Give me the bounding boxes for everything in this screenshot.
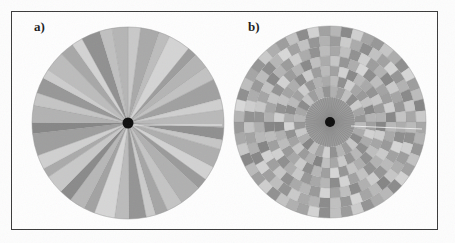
panel-b-hub <box>325 117 335 127</box>
heatmap-cell <box>330 167 340 178</box>
heatmap-cell <box>330 177 340 188</box>
heatmap-cell <box>320 56 330 67</box>
heatmap-cell <box>330 197 341 208</box>
heatmap-cell <box>375 112 386 122</box>
heatmap-cell <box>405 111 416 122</box>
heatmap-cell <box>319 197 330 208</box>
heatmap-cell <box>234 110 245 122</box>
panel-b-label: b) <box>248 19 260 35</box>
heatmap-cell <box>319 36 330 47</box>
heatmap-cell <box>395 111 406 122</box>
heatmap-cell <box>330 187 341 198</box>
heatmap-cell <box>320 66 330 77</box>
heatmap-cell <box>318 207 330 218</box>
heatmap-cell <box>264 122 275 132</box>
heatmap-cell <box>254 111 265 122</box>
heatmap-cell <box>234 122 245 134</box>
heatmap-cell <box>385 112 396 122</box>
heatmap-cell <box>330 46 341 57</box>
heatmap-cell <box>319 187 330 198</box>
panel-a-label: a) <box>34 19 45 35</box>
heatmap-cell <box>330 26 342 37</box>
heatmap-cell <box>244 122 255 133</box>
heatmap-cell <box>330 36 341 47</box>
heatmap-cell <box>318 26 330 37</box>
heatmap-cell <box>405 122 416 133</box>
heatmap-cell <box>244 111 255 122</box>
heatmap-cell <box>330 207 342 218</box>
heatmap-cell <box>319 46 330 57</box>
heatmap-cell <box>415 122 426 134</box>
panel-b-plot <box>0 0 455 243</box>
heatmap-cell <box>254 122 265 133</box>
heatmap-cell <box>415 110 426 122</box>
heatmap-cell <box>274 122 285 132</box>
figure-root: a) b) <box>0 0 455 243</box>
